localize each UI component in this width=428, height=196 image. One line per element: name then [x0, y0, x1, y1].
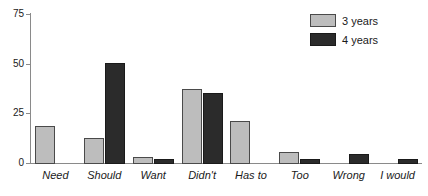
x-axis-label: I would: [373, 168, 422, 182]
bar: [154, 159, 174, 164]
legend-label-4-years: 4 years: [342, 34, 378, 46]
y-tick-label: 0: [18, 158, 24, 168]
legend-swatch-4-years: [310, 33, 336, 46]
y-tick-label: 50: [13, 59, 24, 69]
y-tick-label: 25: [13, 108, 24, 118]
bar: [300, 159, 320, 164]
x-axis-label: Should: [80, 168, 129, 182]
bar-group: [84, 14, 125, 164]
legend-swatch-3-years: [310, 14, 336, 27]
bar: [398, 159, 418, 164]
x-axis-label: Too: [275, 168, 324, 182]
bar: [279, 152, 299, 164]
bar: [349, 154, 369, 164]
legend-label-3-years: 3 years: [342, 15, 378, 27]
x-axis-labels: NeedShouldWantDidn'tHas toTooWrongI woul…: [31, 168, 422, 188]
bar: [133, 157, 153, 164]
x-axis-label: Wrong: [324, 168, 373, 182]
bar-chart: 0255075 NeedShouldWantDidn'tHas toTooWro…: [0, 0, 428, 196]
legend-item-4-years: 4 years: [310, 31, 420, 48]
bar: [35, 126, 55, 164]
legend-item-3-years: 3 years: [310, 12, 420, 29]
y-tick-label: 75: [13, 9, 24, 19]
bar: [203, 93, 223, 164]
bar: [105, 63, 125, 164]
x-axis-label: Didn't: [178, 168, 227, 182]
bar-group: [35, 14, 76, 164]
bar-group: [182, 14, 223, 164]
bar: [84, 138, 104, 164]
bar: [182, 89, 202, 164]
chart-legend: 3 years 4 years: [310, 12, 420, 50]
x-axis-label: Has to: [227, 168, 276, 182]
bar-group: [230, 14, 271, 164]
bar-group: [133, 14, 174, 164]
bar: [230, 121, 250, 164]
x-axis-label: Want: [129, 168, 178, 182]
x-axis-label: Need: [31, 168, 80, 182]
